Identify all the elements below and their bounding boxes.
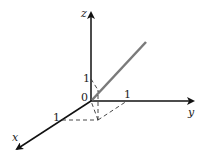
z-tick-label: 1 — [83, 72, 90, 85]
x-tick-label: 1 — [53, 111, 60, 124]
y-axis-label: y — [187, 106, 195, 119]
origin-label: 0 — [81, 91, 88, 104]
z-axis-label: z — [80, 7, 87, 20]
coordinate-diagram: z y x 0 1 1 1 — [0, 0, 205, 161]
vector-line — [92, 42, 146, 100]
x-axis — [17, 101, 91, 149]
y-tick-label: 1 — [124, 88, 131, 101]
diagram-canvas: z y x 0 1 1 1 — [0, 0, 205, 161]
x-axis-label: x — [12, 131, 19, 144]
